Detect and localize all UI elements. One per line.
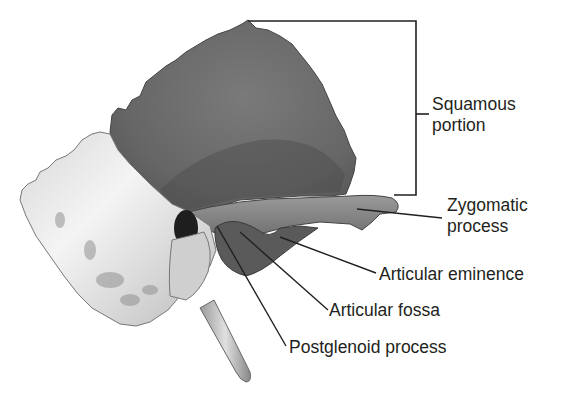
- styloid-process-shape: [200, 300, 251, 382]
- label-articular-eminence: Articular eminence: [379, 264, 524, 285]
- label-squamous: Squamous portion: [432, 94, 516, 136]
- label-squamous-line1: Squamous: [432, 94, 516, 115]
- tympanic-plate: [169, 232, 210, 300]
- label-zygomatic-line1: Zygomatic: [447, 195, 528, 216]
- label-postglenoid-process: Postglenoid process: [289, 337, 447, 358]
- label-articular-fossa: Articular fossa: [329, 300, 440, 321]
- label-squamous-line2: portion: [432, 115, 516, 136]
- label-zygomatic-line2: process: [447, 216, 528, 237]
- label-zygomatic-process: Zygomatic process: [447, 195, 528, 237]
- leader-articular-eminence: [280, 237, 376, 273]
